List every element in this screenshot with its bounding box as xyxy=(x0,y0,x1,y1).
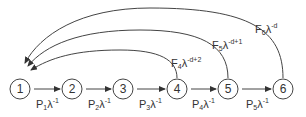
edge-label-f4: F4λ-d+2 xyxy=(171,56,201,70)
edge-label-p5: P5λ-1 xyxy=(246,97,269,111)
node-5-label: 5 xyxy=(218,79,238,99)
node-4-label: 4 xyxy=(167,79,187,99)
edge-label-p3: P3λ-1 xyxy=(139,97,162,111)
edge-label-p1: P1λ-1 xyxy=(36,97,59,111)
edge-label-p4: P4λ-1 xyxy=(192,97,215,111)
edge-label-p2: P2λ-1 xyxy=(88,97,111,111)
edge-5-1 xyxy=(28,30,228,78)
node-3-label: 3 xyxy=(113,79,133,99)
edge-label-f5: F5λ-d+1 xyxy=(212,38,242,52)
edge-4-1 xyxy=(31,50,177,78)
label-exp: -1 xyxy=(209,97,215,104)
label-base: F xyxy=(212,39,219,51)
label-base: F xyxy=(255,23,262,35)
label-base: F xyxy=(171,57,178,69)
label-exp: -1 xyxy=(53,97,59,104)
label-exp: -1 xyxy=(156,97,162,104)
edge-6-1 xyxy=(25,8,283,78)
label-exp: -1 xyxy=(105,97,111,104)
label-exp: -d xyxy=(271,22,277,29)
label-exp: -d+2 xyxy=(187,56,201,63)
back-edges xyxy=(25,8,283,78)
node-1-label: 1 xyxy=(10,79,30,99)
node-6-label: 6 xyxy=(273,79,293,99)
label-exp: -1 xyxy=(263,97,269,104)
edge-label-f6: F6λ-d xyxy=(255,22,277,36)
node-2-label: 2 xyxy=(62,79,82,99)
label-exp: -d+1 xyxy=(228,38,242,45)
